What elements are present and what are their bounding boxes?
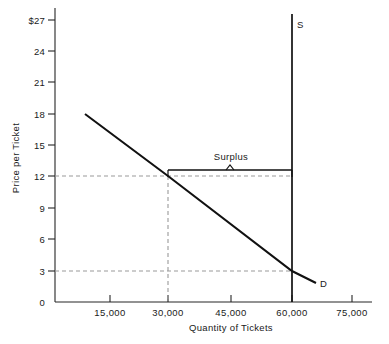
supply-demand-chart: $27 24 21 18 15 12 9 6 3 0 15,000 30,000… — [0, 0, 389, 344]
y-tick-label-15: 15 — [34, 140, 45, 151]
demand-curve-label: D — [320, 278, 327, 289]
x-tick-label-75000: 75,000 — [336, 307, 367, 318]
demand-curve — [85, 114, 316, 283]
y-tick-label-21: 21 — [34, 77, 45, 88]
y-tick-label-6: 6 — [40, 234, 45, 245]
y-tick-label-12: 12 — [34, 171, 45, 182]
y-tick-label-9: 9 — [40, 203, 45, 214]
y-tick-label-18: 18 — [34, 109, 45, 120]
x-tick-label-15000: 15,000 — [94, 307, 125, 318]
x-tick-label-45000: 45,000 — [215, 307, 246, 318]
supply-curve-label: S — [297, 19, 303, 30]
x-tick-label-30000: 30,000 — [152, 307, 183, 318]
surplus-label: Surplus — [214, 151, 248, 162]
x-tick-label-60000: 60,000 — [276, 307, 307, 318]
x-axis-title: Quantity of Tickets — [189, 322, 273, 333]
y-tick-label-27: $27 — [29, 15, 45, 26]
y-tick-label-24: 24 — [34, 46, 45, 57]
chart-canvas: $27 24 21 18 15 12 9 6 3 0 15,000 30,000… — [0, 0, 389, 344]
y-tick-label-0: 0 — [40, 297, 45, 308]
y-axis-ticks — [48, 20, 55, 271]
surplus-annotation: Surplus — [168, 151, 292, 177]
x-axis-ticks — [110, 295, 352, 302]
y-axis-title: Price per Ticket — [10, 123, 21, 193]
y-tick-label-3: 3 — [40, 266, 45, 277]
